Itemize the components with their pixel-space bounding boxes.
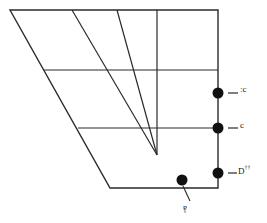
marker-dot-lower-right[interactable] bbox=[213, 168, 224, 179]
label-upper-right-text: ɔ: bbox=[240, 86, 247, 95]
diagram-canvas bbox=[0, 0, 267, 223]
marker-dot-mid-right[interactable] bbox=[213, 123, 224, 134]
converging-line-1 bbox=[72, 10, 157, 155]
figure-root: ɔ: ɔ D†† å bbox=[0, 0, 267, 223]
label-lower-right-base: D bbox=[238, 166, 245, 176]
marker-dot-bottom[interactable] bbox=[177, 175, 188, 186]
label-lower-right: D†† bbox=[238, 165, 251, 176]
label-lower-right-superscript: †† bbox=[245, 164, 251, 170]
label-upper-right: ɔ: bbox=[240, 86, 247, 95]
trapezoid-outline bbox=[10, 10, 218, 188]
marker-dot-upper-right[interactable] bbox=[213, 88, 224, 99]
label-mid-right: ɔ bbox=[240, 122, 244, 131]
label-mid-right-text: ɔ bbox=[240, 122, 244, 131]
converging-line-2 bbox=[117, 10, 157, 155]
label-bottom-text: å bbox=[183, 204, 187, 213]
label-bottom: å bbox=[183, 204, 187, 213]
